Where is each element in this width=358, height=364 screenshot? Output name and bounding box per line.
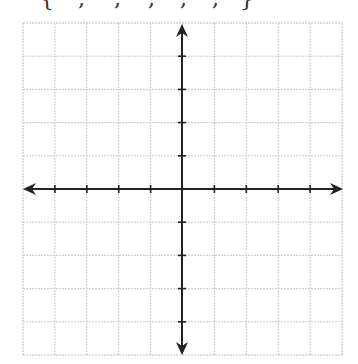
axes (23, 24, 343, 355)
coordinate-plane (0, 0, 358, 364)
